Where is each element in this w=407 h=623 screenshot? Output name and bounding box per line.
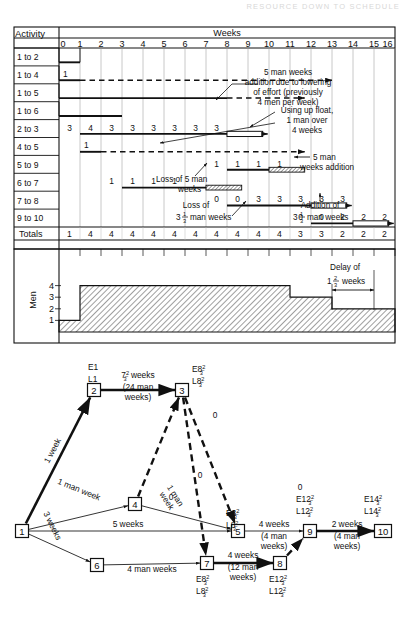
addition-line-2: weeks addition <box>299 163 355 172</box>
network-node-label-2: 2 <box>91 385 96 396</box>
activity-label-6-to-7: 6 to 7 <box>17 178 39 188</box>
week-tick-14: 14 <box>348 39 358 49</box>
week-tick-2: 2 <box>98 39 103 49</box>
event-time: L82–3 <box>196 586 208 598</box>
network-node-label-4: 4 <box>132 499 137 510</box>
resource-histogram: Men 1234 Delay of 1 2 3 weeks <box>14 249 395 343</box>
cell-value: 3 <box>172 123 177 133</box>
event-time-den: 3 <box>307 512 310 518</box>
float-leader-1 <box>250 112 275 127</box>
bar-hatched-extension <box>206 185 242 190</box>
totals-separators <box>80 227 374 240</box>
cell-value: 3 <box>130 123 135 133</box>
event-time: L122–3 <box>296 506 313 518</box>
histogram-ytick-4: 4 <box>49 281 54 291</box>
network-node-label-3: 3 <box>179 385 184 396</box>
edge-label-1-2: 1 week <box>42 436 64 465</box>
network-node-label-10: 10 <box>378 526 389 537</box>
histogram-y-label: Men <box>28 291 38 309</box>
event-time: E142–3 <box>364 494 382 506</box>
technical-figure: RESOURCE DOWN TO SCHEDULE Activity Weeks… <box>0 0 407 623</box>
event-time-den: 3 <box>233 526 236 532</box>
cell-value: 1 <box>109 176 114 186</box>
totals-cell: 3 <box>319 229 324 239</box>
figure-root: RESOURCE DOWN TO SCHEDULE Activity Weeks… <box>0 0 407 623</box>
loss5-line-2: weeks <box>177 185 201 194</box>
event-time-den: 3 <box>203 592 206 598</box>
edge-label-sub1: (12 man <box>228 562 259 572</box>
activity-label-1-to-2: 1 to 2 <box>17 52 39 62</box>
cell-value: 1 <box>256 159 261 169</box>
totals-cell: 4 <box>109 229 114 239</box>
totals-cell: 2 <box>361 229 366 239</box>
gantt-corner-label: Activity <box>15 28 45 39</box>
week-tick-5: 5 <box>161 39 166 49</box>
totals-cell: 2 <box>340 229 345 239</box>
edge-label-unit: weeks <box>129 370 155 380</box>
dummy-edge-label: 0 <box>298 482 303 492</box>
addition-line-1: 5 man <box>313 153 336 162</box>
edge-label-sub2: weeks) <box>260 541 288 551</box>
week-tick-12: 12 <box>306 39 316 49</box>
cell-value: 0 <box>235 194 240 204</box>
cell-value: 1 <box>130 176 135 186</box>
add3-line-1: Addition of <box>301 201 340 210</box>
totals-cell: 3 <box>298 229 303 239</box>
activity-label-1-to-4: 1 to 4 <box>17 70 39 80</box>
histogram-resource-profile <box>59 286 395 332</box>
histogram-ytick-2: 2 <box>49 304 54 314</box>
edge-label-main: 1 week <box>42 436 64 465</box>
float-line-1: Using up float, <box>281 106 333 115</box>
loss3-den: 3 <box>183 218 186 224</box>
event-time-base: E1 <box>88 362 99 372</box>
week-tick-8: 8 <box>224 39 229 49</box>
totals-cell: 2 <box>382 229 387 239</box>
week-tick-4: 4 <box>140 39 145 49</box>
totals-cell: 4 <box>193 229 198 239</box>
event-time: E82–3 <box>196 574 209 586</box>
edge-label-1-5: 5 weeks <box>113 519 144 529</box>
edge-label-sub1: (4 man <box>334 531 360 541</box>
activity-label-7-to-8: 7 to 8 <box>17 196 39 206</box>
event-time: E122–3 <box>296 494 314 506</box>
event-time-den: 3 <box>199 382 202 388</box>
dummy-edge-label: 0 <box>169 492 174 502</box>
cell-value: 3 <box>67 123 72 133</box>
histogram-ytick-1: 1 <box>49 315 54 325</box>
loss3-num: 1 <box>183 211 186 217</box>
delay-num: 2 <box>334 275 337 281</box>
totals-cell: 4 <box>214 229 219 239</box>
bar-hollow-extension <box>227 131 263 136</box>
annotation-5-man-weeks-addition: 5 man weeks addition <box>294 153 355 172</box>
edge-label-1-4: 1 man week <box>56 476 102 502</box>
running-header: RESOURCE DOWN TO SCHEDULE <box>247 2 401 11</box>
edge-label-sub1: (24 man <box>123 382 154 392</box>
event-time: L142–3 <box>364 506 381 518</box>
network-edge-labels: 1 week72–3 weeks(24 manweeks)5 weeks1 ma… <box>41 370 362 582</box>
event-time-base: L1 <box>88 374 98 384</box>
totals-cell: 4 <box>130 229 135 239</box>
event-time: E1 <box>88 362 99 372</box>
activity-label-2-to-3: 2 to 3 <box>17 124 39 134</box>
edge-label-main: 4 weeks <box>259 519 290 529</box>
bar-label: 1 <box>84 140 89 150</box>
cell-value: 3 <box>109 123 114 133</box>
totals-cell: 1 <box>67 229 72 239</box>
edge-1-to-2 <box>26 398 90 524</box>
totals-cell: 4 <box>172 229 177 239</box>
dummy-edge-label: 0 <box>198 470 203 480</box>
float-line-2: 1 man over <box>287 116 328 125</box>
cell-value: 3 <box>193 123 198 133</box>
network-node-label-9: 9 <box>307 526 312 537</box>
edge-label-main: 72–3 weeks <box>121 370 154 382</box>
delay-unit: weeks <box>341 277 365 286</box>
edge-label-sub2: weeks) <box>229 572 257 582</box>
totals-cell: 4 <box>256 229 261 239</box>
edge-4-to-3 <box>138 398 179 497</box>
totals-cell: 4 <box>235 229 240 239</box>
cell-value: 3 <box>256 194 261 204</box>
edge-label-9-10: 2 weeks(4 manweeks) <box>332 519 363 551</box>
edge-label-sub2: weeks) <box>124 392 152 402</box>
cell-value: 4 <box>88 123 93 133</box>
network-node-label-7: 7 <box>204 558 209 569</box>
